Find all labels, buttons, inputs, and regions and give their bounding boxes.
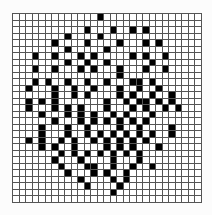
pixel-grid xyxy=(12,13,202,203)
empty-cell xyxy=(195,196,202,203)
